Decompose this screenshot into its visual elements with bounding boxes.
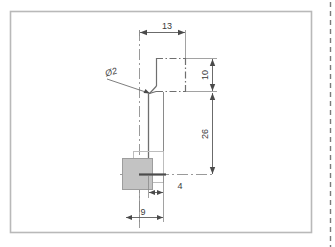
cad-drawing-viewport: 13 10 26 4 (0, 0, 335, 247)
dim-9-label: 9 (140, 207, 145, 217)
cad-drawing-canvas: 13 10 26 4 (0, 0, 335, 247)
dim-4-label: 4 (177, 181, 182, 191)
dim-10-label: 10 (200, 70, 210, 80)
dim-13-label: 13 (162, 21, 172, 31)
dim-26-label: 26 (200, 129, 210, 139)
page-background (0, 0, 335, 247)
